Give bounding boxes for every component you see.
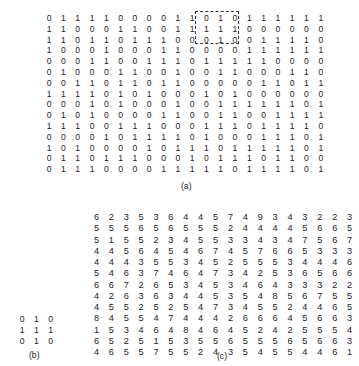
matrix-cell: 1 [285, 67, 299, 78]
matrix-cell: 3 [342, 246, 357, 257]
matrix-cell: 4 [327, 257, 342, 268]
matrix-cell: 6 [253, 280, 268, 291]
matrix-cell: 1 [285, 35, 299, 46]
matrix-cell: 0 [128, 164, 142, 175]
matrix-cell: 6 [327, 313, 342, 324]
matrix-cell: 1 [104, 235, 119, 246]
matrix-cell: 1 [285, 13, 299, 24]
matrix-cell: 5 [208, 336, 223, 347]
matrix-cell: 1 [285, 143, 299, 154]
matrix-cell: 1 [85, 164, 99, 175]
matrix-cell: 1 [299, 35, 313, 46]
matrix-cell: 6 [163, 223, 178, 234]
matrix-cell: 0 [214, 89, 228, 100]
matrix-row: 11110101000101000000 [42, 89, 328, 100]
matrix-cell: 4 [193, 325, 208, 336]
matrix-cell: 0 [113, 56, 127, 67]
matrix-cell: 6 [223, 336, 238, 347]
matrix-cell: 0 [99, 121, 113, 132]
caption-c: (c) [217, 351, 227, 361]
matrix-cell: 5 [238, 246, 253, 257]
matrix-cell: 0 [71, 45, 85, 56]
matrix-cell: 4 [134, 325, 149, 336]
matrix-row: 10100001011101111101 [42, 143, 328, 154]
matrix-cell: 1 [149, 336, 164, 347]
matrix-cell: 7 [149, 347, 164, 358]
matrix-cell: 0 [171, 153, 185, 164]
matrix-cell: 5 [253, 257, 268, 268]
matrix-cell: 1 [314, 99, 328, 110]
matrix-cell: 0 [242, 132, 256, 143]
matrix-cell: 1 [199, 164, 213, 175]
matrix-row: 01000110010011000110 [42, 67, 328, 78]
matrix-cell: 6 [327, 223, 342, 234]
matrix-cell: 1 [42, 35, 56, 46]
matrix-cell: 0 [214, 143, 228, 154]
matrix-cell: 0 [228, 45, 242, 56]
matrix-cell: 3 [312, 246, 327, 257]
matrix-cell: 0 [42, 153, 56, 164]
matrix-cell: 0 [42, 132, 56, 143]
matrix-cell: 2 [104, 212, 119, 223]
matrix-cell: 1 [242, 164, 256, 175]
matrix-cell: 6 [327, 268, 342, 279]
matrix-cell: 1 [185, 143, 199, 154]
matrix-cell: 1 [142, 143, 156, 154]
matrix-cell: 2 [104, 291, 119, 302]
matrix-cell: 1 [271, 99, 285, 110]
matrix-cell: 1 [156, 35, 170, 46]
matrix-cell: 0 [242, 110, 256, 121]
matrix-cell: 0 [285, 56, 299, 67]
matrix-cell: 1 [185, 153, 199, 164]
matrix-cell: 7 [342, 235, 357, 246]
matrix-cell: 3 [223, 302, 238, 313]
matrix-cell: 1 [128, 132, 142, 143]
matrix-cell: 5 [238, 325, 253, 336]
matrix-cell: 6 [268, 246, 283, 257]
matrix-cell: 1 [128, 67, 142, 78]
matrix-cell: 1 [314, 132, 328, 143]
matrix-cell: 4 [342, 325, 357, 336]
matrix-cell: 5 [342, 223, 357, 234]
matrix-cell: 1 [56, 110, 70, 121]
matrix-cell: 0 [113, 143, 127, 154]
matrix-cell: 0 [171, 121, 185, 132]
matrix-cell: 4 [89, 291, 104, 302]
matrix-cell: 0 [142, 110, 156, 121]
matrix-cell: 0 [142, 45, 156, 56]
matrix-cell: 5 [178, 302, 193, 313]
matrix-cell: 0 [156, 99, 170, 110]
matrix-cell: 2 [149, 235, 164, 246]
matrix-cell: 1 [71, 143, 85, 154]
matrix-cell: 1 [271, 164, 285, 175]
matrix-cell: 0 [242, 78, 256, 89]
matrix-cell: 0 [142, 13, 156, 24]
matrix-cell: 0 [299, 143, 313, 154]
matrix-cell: 4 [163, 325, 178, 336]
matrix-cell: 1 [314, 110, 328, 121]
matrix-cell: 5 [312, 268, 327, 279]
matrix-cell: 1 [314, 13, 328, 24]
matrix-cell: 0 [113, 110, 127, 121]
matrix-row: 00110110110000011011 [42, 78, 328, 89]
matrix-cell: 4 [178, 246, 193, 257]
matrix-cell: 7 [163, 313, 178, 324]
matrix-cell: 0 [299, 153, 313, 164]
matrix-cell: 1 [285, 164, 299, 175]
matrix-cell: 1 [299, 121, 313, 132]
matrix-cell: 0 [128, 99, 142, 110]
matrix-cell: 1 [228, 121, 242, 132]
matrix-cell: 1 [171, 99, 185, 110]
matrix-cell: 1 [171, 13, 185, 24]
matrix-cell: 0 [185, 110, 199, 121]
matrix-cell: 3 [149, 212, 164, 223]
matrix-cell: 3 [163, 291, 178, 302]
matrix-cell: 0 [142, 67, 156, 78]
matrix-cell: 1 [29, 325, 43, 336]
matrix-cell: 7 [208, 268, 223, 279]
matrix-cell: 3 [178, 257, 193, 268]
matrix-cell: 0 [199, 67, 213, 78]
matrix-cell: 0 [256, 110, 270, 121]
matrix-cell: 0 [299, 132, 313, 143]
matrix-cell: 1 [171, 143, 185, 154]
